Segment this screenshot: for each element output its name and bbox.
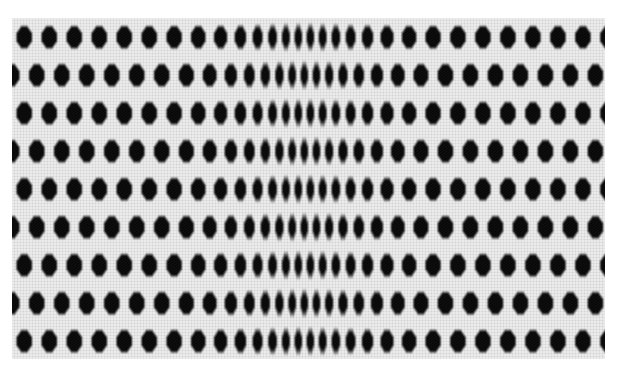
moire-pattern-canvas <box>12 18 605 359</box>
moire-pattern-image: Black and white moire pattern of stagger… <box>0 0 623 377</box>
